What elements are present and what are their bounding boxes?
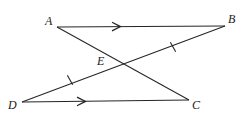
vertex-label-b: B — [228, 13, 235, 25]
segment-ab — [57, 26, 225, 27]
segment-dc — [22, 100, 189, 102]
segment-ac — [57, 27, 189, 100]
figure-canvas — [0, 0, 250, 126]
segment-db — [22, 26, 225, 102]
vertex-label-d: D — [8, 99, 17, 111]
vertex-label-c: C — [192, 99, 200, 111]
vertex-label-a: A — [45, 15, 52, 27]
vertex-label-e: E — [97, 55, 104, 67]
tick-mark-eb-icon — [170, 42, 175, 52]
tick-mark-de-icon — [67, 75, 72, 85]
geometry-figure: A B C D E — [0, 0, 250, 126]
